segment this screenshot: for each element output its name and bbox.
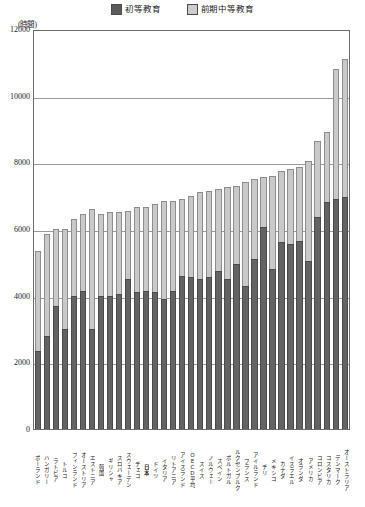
legend-label-primary-education: 初等教育 (125, 5, 160, 14)
x-axis-label-33: コスタリカ (325, 433, 331, 507)
bar-segment-lower-secondary (125, 211, 131, 279)
x-axis-label-26: チリ (261, 433, 267, 507)
x-axis-label-18: OECD平均 (188, 433, 194, 507)
bar-6 (80, 214, 86, 429)
y-axis-tick-label: 6000 (14, 226, 30, 234)
bar-segment-primary (134, 292, 140, 429)
bar-segment-lower-secondary (197, 192, 203, 279)
bar-segment-primary (260, 227, 266, 429)
bar-25 (251, 179, 257, 429)
bar-11 (125, 211, 131, 429)
bar-series-container (34, 31, 349, 429)
x-axis-label-25: アイルランド (252, 433, 258, 507)
legend-item-primary-education: 初等教育 (111, 4, 160, 15)
bar-segment-lower-secondary (224, 187, 230, 279)
bar-segment-primary (188, 277, 194, 429)
legend-label-lower-secondary-education: 前期中等教育 (201, 5, 254, 14)
x-axis-label-5: フィンランド (70, 433, 76, 507)
x-axis-label-6: オーストリア (79, 433, 85, 507)
x-axis-label-23: ルクセンブルク (234, 433, 240, 507)
bar-segment-primary (98, 296, 104, 429)
bar-segment-lower-secondary (188, 196, 194, 278)
bar-segment-lower-secondary (53, 229, 59, 306)
bar-segment-primary (197, 279, 203, 429)
x-axis-label-28: カナダ (279, 433, 285, 507)
x-axis-label-13: 日本 (143, 433, 149, 507)
bar-33 (324, 132, 330, 429)
bar-segment-lower-secondary (260, 177, 266, 227)
bar-segment-lower-secondary (333, 69, 339, 199)
legend-item-lower-secondary-education: 前期中等教育 (187, 4, 254, 15)
x-axis-label-1: ポーランド (34, 433, 40, 507)
x-axis-label-22: ポルトガル (225, 433, 231, 507)
x-axis-label-12: チェコ (134, 433, 140, 507)
bar-segment-lower-secondary (44, 234, 50, 336)
legend-swatch-primary-education (111, 4, 122, 15)
x-axis-label-8: 韓国 (98, 433, 104, 507)
bar-segment-primary (233, 264, 239, 429)
bar-segment-primary (107, 296, 113, 429)
bar-segment-primary (333, 199, 339, 429)
x-axis-category-labels: ポーランドハンガリーラトビアトルコフィンランドオーストリアエストニア韓国ギリシャ… (33, 433, 350, 507)
bar-20 (206, 191, 212, 429)
bar-segment-primary (179, 276, 185, 429)
bar-13 (143, 207, 149, 429)
x-axis-label-3: ラトビア (52, 433, 58, 507)
bar-segment-lower-secondary (80, 214, 86, 291)
bar-segment-primary (80, 291, 86, 429)
legend-swatch-lower-secondary-education (187, 4, 198, 15)
x-axis-label-17: アイスランド (179, 433, 185, 507)
bar-segment-primary (296, 241, 302, 429)
x-axis-label-2: ハンガリー (43, 433, 49, 507)
y-axis-tick-label: 0 (26, 426, 30, 434)
x-axis-label-30: オランダ (297, 433, 303, 507)
bar-24 (242, 182, 248, 429)
bar-1 (35, 251, 41, 429)
bar-7 (89, 209, 95, 429)
bar-3 (53, 229, 59, 429)
bar-27 (269, 176, 275, 429)
chart-legend: 初等教育 前期中等教育 (0, 1, 365, 17)
x-axis-label-21: スペイン (216, 433, 222, 507)
y-axis-tick-label: 10000 (10, 93, 30, 101)
bar-segment-lower-secondary (287, 169, 293, 244)
bar-segment-primary (71, 296, 77, 429)
x-axis-label-16: リトアニア (170, 433, 176, 507)
bar-segment-lower-secondary (107, 212, 113, 295)
bar-segment-lower-secondary (215, 189, 221, 271)
bar-segment-primary (161, 299, 167, 429)
bar-segment-primary (170, 291, 176, 429)
x-axis-label-15: イタリア (161, 433, 167, 507)
x-axis-label-20: ノルウェー (206, 433, 212, 507)
bar-segment-lower-secondary (251, 179, 257, 259)
bar-segment-lower-secondary (242, 182, 248, 285)
bar-15 (161, 201, 167, 429)
bar-29 (287, 169, 293, 429)
bar-35 (342, 59, 348, 429)
bar-segment-lower-secondary (35, 251, 41, 351)
bar-segment-primary (314, 217, 320, 429)
bar-22 (224, 187, 230, 429)
bar-segment-lower-secondary (62, 229, 68, 329)
bar-segment-primary (224, 279, 230, 429)
bar-segment-primary (251, 259, 257, 429)
x-axis-label-35: オーストラリア (343, 433, 349, 507)
bar-18 (188, 196, 194, 429)
bar-segment-lower-secondary (161, 201, 167, 299)
bar-segment-lower-secondary (170, 201, 176, 291)
bar-segment-lower-secondary (89, 209, 95, 329)
bar-5 (71, 219, 77, 429)
bar-segment-primary (125, 279, 131, 429)
x-axis-label-29: イスラエル (288, 433, 294, 507)
bar-segment-primary (342, 197, 348, 429)
bar-segment-lower-secondary (179, 199, 185, 276)
bar-segment-lower-secondary (206, 191, 212, 278)
bar-segment-primary (324, 202, 330, 429)
x-axis-label-27: メキシコ (270, 433, 276, 507)
bar-segment-primary (44, 336, 50, 429)
bar-segment-lower-secondary (314, 141, 320, 218)
bar-segment-primary (215, 271, 221, 429)
x-axis-label-31: アメリカ (306, 433, 312, 507)
bar-segment-lower-secondary (233, 186, 239, 264)
x-axis-label-24: フランス (243, 433, 249, 507)
